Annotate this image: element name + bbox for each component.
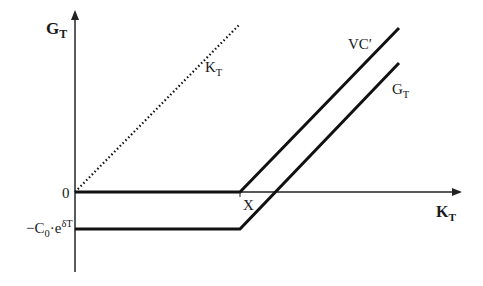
vc-prime-curve-label: VC′: [348, 37, 372, 52]
kt-dotted-line: [75, 24, 240, 192]
payoff-diagram: GT KT 0 X −C0·eδT KT VC′ GT: [0, 0, 483, 286]
x-axis-label-main: K: [436, 203, 448, 220]
origin-label: 0: [62, 186, 70, 201]
kt-curve-label: KT: [205, 60, 222, 79]
x-axis-label-sub: T: [448, 211, 455, 223]
diagram-svg: [0, 0, 483, 286]
vc-prime-line: [75, 28, 399, 192]
kink-x-label: X: [243, 198, 254, 213]
y-axis-label-sub: T: [59, 27, 67, 41]
gt-line: [75, 63, 399, 229]
y-axis-label-main: G: [46, 19, 59, 38]
y-axis-label: GT: [46, 20, 67, 41]
negative-level-label: −C0·eδT: [26, 219, 73, 240]
x-axis-label: KT: [436, 204, 456, 223]
gt-curve-label: GT: [392, 82, 409, 101]
